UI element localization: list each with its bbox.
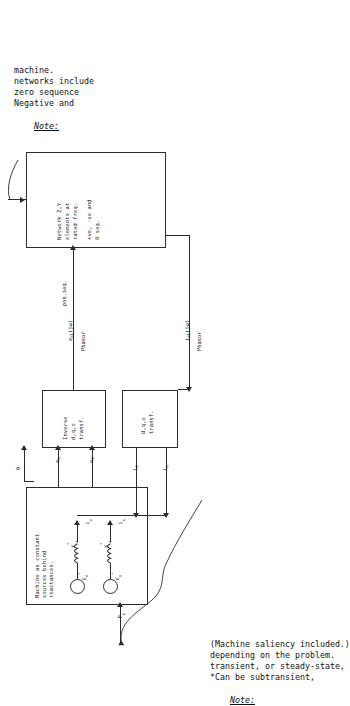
ed-sub: d bbox=[90, 457, 95, 459]
iq-fb-sub: q bbox=[164, 465, 169, 467]
ea1-sub: a1 bbox=[69, 333, 74, 338]
ia1-network-drop bbox=[166, 235, 190, 236]
source-ed-sub: d bbox=[85, 575, 89, 577]
figure-canvas: Machine as constant sources behind react… bbox=[0, 0, 221, 706]
reactance-xd-label: X*d bbox=[62, 540, 84, 560]
source-ed-base: E bbox=[81, 577, 86, 580]
eq-arrowhead bbox=[55, 445, 61, 450]
inverse-block-line2: d,q,o bbox=[70, 423, 77, 440]
ea1-base: e bbox=[67, 338, 73, 341]
ia1-sub: a1 bbox=[186, 333, 191, 338]
current-id-sub: d bbox=[89, 519, 93, 521]
ea1-signal-line bbox=[73, 248, 74, 390]
machine-d-lead bbox=[77, 563, 78, 579]
bottom-note-line4: (Machine saliency included.) bbox=[210, 639, 350, 650]
machine-block-line3: reactances. bbox=[48, 561, 55, 598]
ia1-arg: (jω) bbox=[184, 320, 190, 333]
reactance-xq-base: X bbox=[103, 545, 109, 548]
zero-signal-riser bbox=[24, 481, 34, 482]
inverse-block-line3: transf. bbox=[78, 416, 85, 440]
ea1-kind-label: Phasor bbox=[80, 332, 86, 351]
reactance-xd-base: X bbox=[70, 545, 76, 548]
top-note-line4: machine. bbox=[14, 65, 54, 76]
network-block-line1: Network Z,Y bbox=[56, 203, 63, 240]
top-note-line1: Negative and bbox=[14, 98, 74, 109]
top-note-line3: networks include bbox=[14, 76, 94, 87]
ia1-signal-line bbox=[189, 235, 190, 390]
ed-arrowhead bbox=[89, 445, 95, 450]
id-fb-sub: d bbox=[134, 465, 139, 467]
zero-arrowhead bbox=[21, 445, 27, 450]
ea1-seq-label: pos.seq. bbox=[61, 280, 67, 306]
forward-block-line1: d,q,o bbox=[140, 417, 147, 434]
top-note: Note: bbox=[14, 110, 59, 142]
machine-d-out-lead bbox=[77, 524, 78, 542]
eq-signal-label: eq bbox=[48, 457, 68, 476]
zero-signal-label: 0 bbox=[15, 467, 21, 470]
ia1-base: i bbox=[184, 338, 190, 341]
top-note-heading: Note: bbox=[34, 121, 59, 131]
bottom-note: Note: bbox=[210, 684, 255, 706]
network-block-line5: 0 seq. bbox=[94, 220, 101, 240]
id-feedback-label: id bbox=[126, 465, 146, 484]
ia1-signal-label: ia1(jω) bbox=[178, 320, 198, 354]
ea1-arrowhead bbox=[70, 245, 76, 250]
reactance-xd-sup: * bbox=[66, 543, 71, 545]
bottom-note-leader bbox=[112, 496, 204, 646]
forward-block-line2: transf. bbox=[148, 410, 155, 434]
eq-sub: q bbox=[56, 457, 61, 459]
id-fb-base: i bbox=[132, 468, 138, 471]
network-block-line4: +ve, -ve and bbox=[86, 199, 93, 240]
inverse-block-line1: Inverse bbox=[62, 416, 69, 440]
bottom-note-line1: *Can be subtransient, bbox=[210, 672, 315, 683]
iq-feedback-label: iq bbox=[156, 465, 176, 484]
ed-base: e bbox=[88, 460, 94, 463]
ea1-signal-label: ea1(jω) bbox=[61, 320, 81, 354]
bottom-note-line2: transient, or steady-state, bbox=[210, 661, 345, 672]
source-ed-sup: * bbox=[78, 573, 82, 575]
current-id-label: id bbox=[80, 519, 97, 536]
top-note-leader bbox=[6, 152, 28, 200]
zero-signal-line bbox=[24, 448, 25, 482]
eq-base: e bbox=[54, 460, 60, 463]
reactance-xq-sup: * bbox=[99, 543, 104, 545]
ed-signal-label: ed bbox=[82, 457, 102, 476]
ia1-into-transform bbox=[178, 389, 190, 390]
iq-fb-base: i bbox=[162, 468, 168, 471]
bottom-note-heading: Note: bbox=[230, 695, 255, 705]
ea1-arg: (jω) bbox=[67, 320, 73, 333]
machine-block-line2: sources behind bbox=[41, 551, 48, 598]
machine-block-line1: Machine as constant bbox=[34, 534, 41, 598]
network-block-line2: elements at bbox=[64, 203, 71, 240]
top-note-line2: zero sequence bbox=[14, 87, 79, 98]
bottom-note-line3: depending on the problem. bbox=[210, 650, 335, 661]
ia1-kind-label: Phasor bbox=[196, 332, 202, 351]
network-block-line3: rated freq. bbox=[72, 203, 79, 240]
